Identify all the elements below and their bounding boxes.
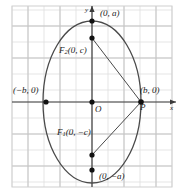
y-axis-arrow: [89, 6, 94, 12]
label-focus-upper: F2(0, c): [59, 46, 87, 56]
label-left-vertex: (−b, 0): [13, 86, 39, 95]
origin-label: O: [95, 105, 102, 114]
point-bottom-vertex: [89, 167, 94, 172]
figure-canvas: [0, 0, 185, 193]
focus-upper-coords: (0, c): [68, 45, 87, 55]
label-top-vertex: (0, a): [100, 9, 120, 18]
point-top-vertex: [89, 18, 94, 23]
label-focus-lower: F1(0, −c): [57, 128, 91, 138]
point-focus-lower: [89, 152, 94, 157]
x-axis-label: x: [170, 105, 173, 112]
segment-F2-P: [92, 38, 141, 102]
point-focus-upper: [89, 35, 94, 40]
point-left-vertex: [43, 99, 48, 104]
point-origin: [89, 99, 94, 104]
ellipse-figure: y x O (0, a) (0, −a) (−b, 0) (b, 0) P F2…: [0, 0, 185, 193]
label-point-P: P: [140, 103, 146, 112]
focus-lower-coords: (0, −c): [66, 127, 91, 137]
y-axis-label: y: [85, 7, 88, 14]
label-right-vertex: (b, 0): [140, 86, 160, 95]
label-bottom-vertex: (0, −a): [99, 172, 125, 181]
